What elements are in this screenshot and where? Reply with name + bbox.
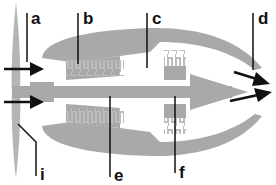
label-f: f — [179, 163, 185, 182]
intake-arrow-upper — [4, 62, 44, 76]
exhaust-cone — [190, 74, 248, 110]
turboprop-diagram: a b c d e f i — [0, 0, 276, 185]
label-c: c — [152, 9, 161, 28]
exhaust-arrow-upper — [234, 72, 270, 86]
turbine-upper — [164, 50, 186, 80]
label-b: b — [83, 9, 93, 28]
label-e: e — [114, 166, 123, 185]
label-d: d — [258, 9, 268, 28]
label-i: i — [40, 165, 45, 184]
label-a: a — [31, 9, 41, 28]
